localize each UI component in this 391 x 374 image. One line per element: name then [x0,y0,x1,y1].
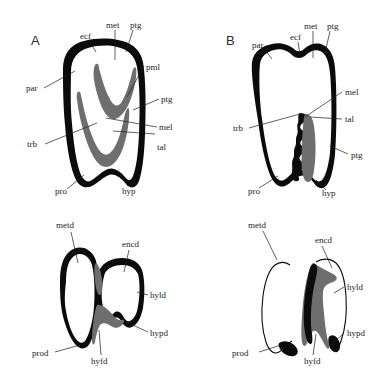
label-d-encd: encd [315,235,332,245]
leader-d-encd [322,246,332,268]
leader-c-hyfd [99,330,101,355]
label-b-trb: trb [233,123,243,133]
label-c-encd: encd [122,239,139,249]
figure-canvas: A ecf met ptg pml ptg mel tal par trb pr… [0,0,391,374]
label-c-metd: metd [56,220,74,230]
leader-a-tal [113,131,155,134]
label-a-met: met [106,20,120,30]
leader-d-hyfd [313,334,316,355]
leader-d-metd [263,231,277,260]
leader-a-ptg2 [133,99,159,110]
leader-c-metd [71,232,78,263]
leader-d-prod [259,345,281,352]
label-c-hyfd: hyfd [91,356,108,366]
panel-b-group: B par ecf met ptg mel tal ptg trb pro hy… [226,21,363,198]
leader-a-mel [106,118,157,127]
leader-d-hyld [334,287,344,293]
panel-b-dentine-strip [302,114,316,182]
leader-b-trb [249,114,300,128]
label-a-tal: tal [157,142,166,152]
panel-d-group: metd encd hyld hypd hyfd prod [232,220,366,366]
label-a-trb: trb [27,139,37,149]
panel-c-group: metd encd hyld hypd hyfd prod [32,220,169,366]
label-d-prod: prod [232,348,249,358]
panel-d-enamel-cusp-right [328,335,340,352]
label-b-ecf: ecf [290,32,301,42]
label-a-ptg-upper: ptg [130,20,142,30]
label-a-pml: pml [146,62,161,72]
label-a-par: par [26,83,38,93]
leader-b-tal [310,117,342,119]
label-b-pro: pro [248,186,260,196]
label-b-hyp: hyp [322,188,336,198]
tooth-morphology-figure: A ecf met ptg pml ptg mel tal par trb pr… [0,0,391,374]
panel-d-enamel-cusp-left [279,341,298,356]
label-d-metd: metd [248,220,266,230]
label-b-mel: mel [345,87,359,97]
label-c-hypd: hypd [150,328,169,338]
label-d-hypd: hypd [347,328,366,338]
label-c-hyld: hyld [150,290,167,300]
label-b-par: par [252,40,264,50]
label-a-mel: mel [159,122,173,132]
label-b-ptg-lower: ptg [351,150,363,160]
label-d-hyld: hyld [347,282,364,292]
panel-d-trigonid-outline [262,262,292,353]
label-a-pro: pro [55,186,67,196]
panel-b-letter: B [226,33,235,48]
label-b-ptg-upper: ptg [327,21,339,31]
panel-a-letter: A [31,33,40,48]
label-d-hyfd: hyfd [304,356,321,366]
panel-c-dentine-lower [92,305,124,345]
label-a-hyp: hyp [122,186,136,196]
label-b-met: met [304,21,318,31]
label-a-ptg-lower: ptg [161,94,173,104]
leader-c-prod [55,345,80,352]
label-c-prod: prod [32,348,49,358]
label-a-ecf: ecf [80,31,91,41]
label-b-tal: tal [345,114,354,124]
panel-a-group: A ecf met ptg pml ptg mel tal par trb pr… [26,20,173,196]
